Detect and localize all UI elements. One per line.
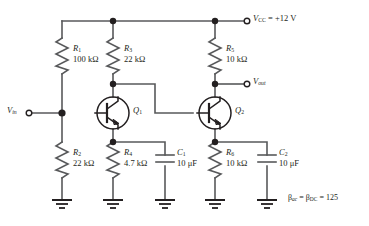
terminal-vin-circle [26, 110, 32, 116]
label-c1-value: 10 μF [177, 159, 197, 168]
label-q1-ref: Q1 [133, 106, 142, 115]
label-beta-annotation: βac = βDC = 125 [288, 194, 338, 203]
junction-dots [58, 18, 218, 145]
label-c1-ref: C1 [177, 148, 186, 157]
capacitor-c1-symbol [156, 155, 174, 162]
wire-q1-collector-to-q2-base [113, 84, 193, 113]
label-r1-value: 100 kΩ [73, 55, 98, 64]
junction-q2-collector [212, 81, 218, 87]
wire-c2-top [215, 142, 267, 155]
label-r5-ref: R5 [226, 44, 234, 53]
circuit-diagram: R1 100 kΩ R3 22 kΩ R5 10 kΩ R2 22 kΩ R4 … [0, 0, 369, 226]
ground-c2 [257, 200, 277, 208]
resistor-r3-symbol [107, 38, 119, 74]
label-c2-value: 10 μF [279, 159, 299, 168]
resistor-r1-symbol [56, 38, 68, 74]
wire-c1-top [113, 142, 165, 155]
label-q2-ref: Q2 [235, 106, 244, 115]
label-c2-ref: C2 [279, 148, 288, 157]
ground-r6 [205, 200, 225, 208]
ground-r4 [103, 200, 123, 208]
ground-symbols [52, 200, 277, 208]
resistor-r5-symbol [209, 38, 221, 74]
label-r2-ref: R2 [73, 148, 81, 157]
resistor-r4-symbol [107, 142, 119, 178]
ground-c1 [155, 200, 175, 208]
junction-q2-emitter [212, 139, 218, 145]
label-vin: Vin [7, 106, 17, 115]
label-r4-value: 4.7 kΩ [124, 159, 147, 168]
label-r6-ref: R6 [226, 148, 234, 157]
junction-vcc-r3 [110, 18, 116, 24]
label-vcc: VCC = +12 V [253, 14, 296, 23]
terminal-vout-circle [244, 81, 250, 87]
label-r1-ref: R1 [73, 44, 81, 53]
transistor-q2-symbol [197, 97, 231, 129]
resistor-r6-symbol [209, 142, 221, 178]
junction-q1-collector [110, 81, 116, 87]
junction-q1-emitter [110, 139, 116, 145]
label-r6-value: 10 kΩ [226, 159, 247, 168]
label-r2-value: 22 kΩ [73, 159, 94, 168]
ground-r2 [52, 200, 72, 208]
junction-vcc-r5 [212, 18, 218, 24]
junction-q1-base [58, 109, 65, 116]
schematic-canvas [0, 0, 369, 226]
resistor-r2-symbol [56, 142, 68, 178]
transistor-q1-symbol [95, 97, 129, 129]
label-r4-ref: R4 [124, 148, 132, 157]
label-r3-ref: R3 [124, 44, 132, 53]
label-vout: Vout [253, 77, 266, 86]
label-r5-value: 10 kΩ [226, 55, 247, 64]
label-r3-value: 22 kΩ [124, 55, 145, 64]
capacitor-c2-symbol [258, 155, 276, 162]
terminal-vcc-circle [244, 18, 250, 24]
